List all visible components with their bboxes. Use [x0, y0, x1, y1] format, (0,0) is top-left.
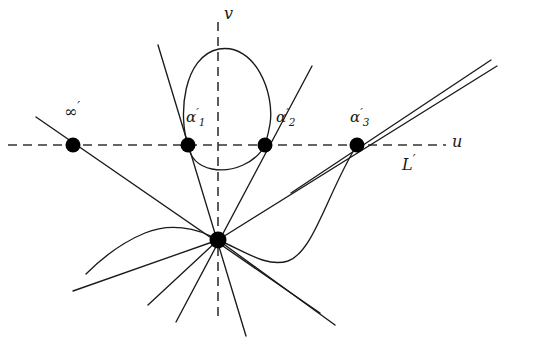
point-alpha-3-dot[interactable] [350, 138, 365, 153]
point-alpha-2-label: α′2 [276, 107, 295, 128]
point-alpha-2-dot[interactable] [258, 138, 273, 153]
left-whisker-curve [86, 227, 218, 274]
point-infinity-label: ∞′ [64, 101, 80, 120]
line-node-down-right [218, 240, 335, 325]
figure-root: v u L′ ∞′ α′1 α′2 α′3 [0, 0, 552, 350]
point-infinity-dot[interactable] [66, 138, 81, 153]
point-alpha-1-dot[interactable] [181, 138, 196, 153]
point-node-dot[interactable] [210, 232, 227, 249]
point-alpha-1-label: α′1 [186, 107, 205, 128]
point-alpha-3-label: α′3 [350, 107, 369, 128]
u-axis-label: u [452, 134, 462, 150]
diagram-canvas [0, 0, 552, 350]
line-node-down-left-mid [148, 240, 218, 305]
line-alpha3-through-upper [291, 60, 491, 193]
v-axis-label: v [224, 6, 233, 22]
line-L-prime: ′ [413, 152, 416, 167]
line-alpha1-steep [158, 45, 246, 336]
line-L-label: L′ [402, 154, 415, 173]
